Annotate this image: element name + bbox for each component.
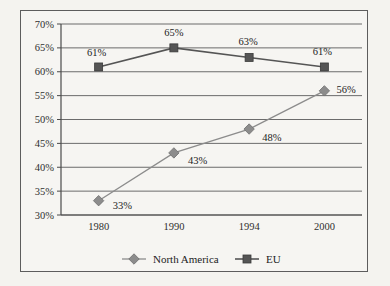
- y-tick-label: 60%: [35, 66, 55, 77]
- x-tick-label: 1980: [88, 221, 109, 232]
- value-label: 43%: [188, 155, 208, 166]
- y-tick-label: 70%: [35, 19, 55, 30]
- x-tick-label: 2000: [314, 221, 335, 232]
- series-lines-group: [99, 48, 325, 201]
- value-label: 65%: [164, 27, 184, 38]
- data-point-marker: [169, 148, 179, 158]
- data-point-marker: [245, 53, 253, 61]
- data-point-marker: [319, 86, 329, 96]
- legend-label: EU: [266, 253, 281, 265]
- value-label: 61%: [313, 46, 333, 57]
- x-tick-label: 1994: [239, 221, 261, 232]
- legend-marker: [129, 254, 139, 264]
- series-line: [99, 91, 325, 201]
- y-tick-label: 35%: [35, 186, 55, 197]
- y-tick-label: 40%: [35, 162, 55, 173]
- legend-label: North America: [153, 253, 219, 265]
- value-label: 48%: [262, 132, 282, 143]
- legend-marker: [243, 255, 251, 263]
- y-tick-label: 30%: [35, 210, 55, 221]
- value-label: 33%: [113, 200, 133, 211]
- y-tick-label: 55%: [35, 90, 55, 101]
- x-tick-label: 1990: [163, 221, 184, 232]
- y-tick-label: 50%: [35, 114, 55, 125]
- chart-legend: North AmericaEU: [122, 253, 281, 265]
- value-label: 63%: [239, 36, 259, 47]
- line-chart: 30%35%40%45%50%55%60%65%70% 198019901994…: [0, 0, 390, 286]
- data-point-marker: [320, 63, 328, 71]
- value-label: 61%: [87, 47, 107, 58]
- data-point-marker: [93, 195, 103, 205]
- y-axis-tick-labels: 30%35%40%45%50%55%60%65%70%: [35, 19, 55, 221]
- figure-container: 30%35%40%45%50%55%60%65%70% 198019901994…: [0, 0, 390, 286]
- x-axis-tick-labels: 1980199019942000: [88, 221, 335, 232]
- data-point-marker: [95, 63, 103, 71]
- data-point-marker: [170, 44, 178, 52]
- y-tick-label: 45%: [35, 138, 55, 149]
- series-line: [99, 48, 325, 67]
- y-tick-label: 65%: [35, 42, 55, 53]
- data-point-marker: [244, 124, 254, 134]
- value-label: 56%: [336, 84, 356, 95]
